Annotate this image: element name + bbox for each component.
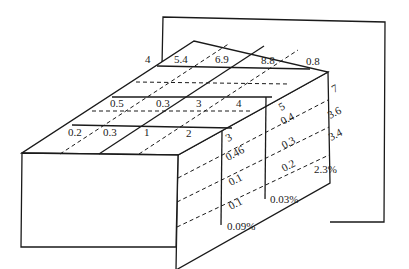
data-cube-diagram: 4 5.4 6.9 8.8 0.8 0.5 0.3 3 4 0.2 0.3 1 …	[0, 0, 409, 269]
top-cell: 0.5	[110, 97, 124, 109]
top-cell: 8.8	[261, 54, 275, 66]
percent-label-front: 0.09%	[227, 220, 255, 232]
top-cell: 6.9	[215, 53, 229, 65]
top-cell: 0.3	[103, 126, 117, 138]
back-panel-label: 4	[145, 53, 151, 65]
front-face	[21, 153, 178, 247]
side-cell: 7	[329, 81, 340, 94]
top-cell: 0.8	[306, 55, 320, 67]
top-cell: 0.2	[68, 126, 82, 138]
top-cell: 2	[186, 127, 192, 139]
top-cell: 5.4	[174, 53, 188, 65]
top-cell: 1	[144, 126, 150, 138]
top-cell: 4	[236, 97, 242, 109]
top-cell: 3	[196, 97, 202, 109]
top-cell: 0.3	[156, 97, 170, 109]
percent-label-back: 2.3%	[314, 163, 337, 175]
percent-label-middle: 0.03%	[270, 193, 298, 205]
